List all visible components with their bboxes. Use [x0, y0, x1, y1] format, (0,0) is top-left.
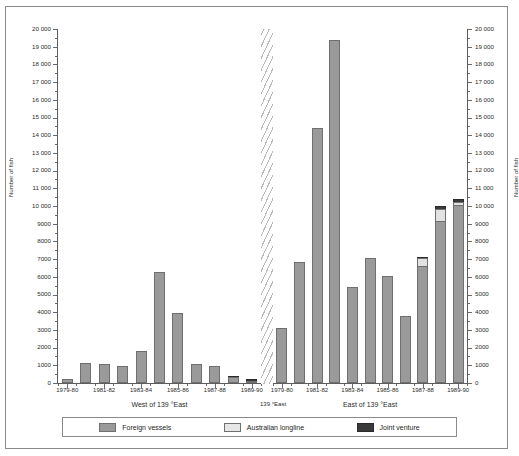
bar-west-1988-89[interactable]	[228, 376, 239, 383]
y-tick-label-right-18000: 18 000	[475, 61, 494, 67]
bar-slot-west-1989-90	[243, 29, 261, 383]
bar-west-1989-90[interactable]	[246, 379, 257, 383]
bar-east-1979-80[interactable]	[276, 328, 287, 383]
y-tick-left-3000	[53, 330, 57, 331]
x-tick-label-east-1989-90: 1989-90	[447, 387, 469, 393]
y-tick-left-2000	[53, 348, 57, 349]
y-tick-right-12500	[468, 162, 470, 163]
plot-area: 0010001000200020003000300040004000500050…	[57, 29, 468, 384]
y-tick-right-10000	[468, 206, 472, 207]
y-axis-title-right: Number of fish	[513, 158, 519, 197]
x-tick-label-west-1989-90: 1989-90	[241, 387, 263, 393]
x-tick-east-edge-0	[273, 384, 274, 386]
bar-slot-west-1983-84	[132, 29, 150, 383]
bar-west-1986-87[interactable]	[191, 364, 202, 383]
bar-east-1981-82[interactable]	[312, 128, 323, 383]
y-axis-title-left: Number of fish	[8, 158, 14, 197]
y-tick-left-1000	[53, 365, 57, 366]
y-tick-right-19500	[468, 38, 470, 39]
x-ticks-west	[58, 384, 261, 389]
y-tick-right-11500	[468, 179, 470, 180]
y-tick-label-left-0: 0	[48, 380, 51, 386]
x-tick-east-edge-8	[414, 384, 415, 386]
y-tick-label-left-17000: 17 000	[32, 79, 51, 85]
bar-west-1987-88[interactable]	[209, 366, 220, 383]
y-tick-label-left-9000: 9000	[37, 221, 51, 227]
bar-segment-west-1985-86-foreign-vessels	[172, 313, 183, 383]
y-tick-label-right-12000: 12 000	[475, 167, 494, 173]
y-tick-right-0	[468, 383, 472, 384]
y-tick-label-left-6000: 6000	[37, 274, 51, 280]
y-tick-label-right-19000: 19 000	[475, 44, 494, 50]
bar-east-1980-81[interactable]	[294, 262, 305, 383]
legend-label-joint-venture: Joint venture	[380, 424, 420, 431]
legend-item-joint-venture: Joint venture	[357, 423, 420, 432]
y-tick-right-18000	[468, 64, 472, 65]
bar-segment-west-1981-82-foreign-vessels	[99, 364, 110, 383]
bar-west-1980-81[interactable]	[80, 363, 91, 383]
y-tick-left-18000	[53, 64, 57, 65]
bar-west-1981-82[interactable]	[99, 364, 110, 383]
bar-slot-east-1985-86	[379, 29, 397, 383]
y-tick-right-1000	[468, 365, 472, 366]
bar-east-1982-83[interactable]	[329, 40, 340, 383]
bar-slot-west-1980-81	[76, 29, 94, 383]
bar-slot-east-1988-89	[432, 29, 450, 383]
y-tick-label-right-3000: 3000	[475, 327, 489, 333]
bar-west-1983-84[interactable]	[136, 351, 147, 383]
y-tick-left-10500	[55, 197, 57, 198]
y-tick-left-15000	[53, 118, 57, 119]
y-tick-left-4500	[55, 303, 57, 304]
bar-west-1985-86[interactable]	[172, 313, 183, 383]
bar-slot-west-1979-80	[58, 29, 76, 383]
bar-slot-west-1981-82	[95, 29, 113, 383]
y-tick-right-13000	[468, 153, 472, 154]
bar-east-1983-84[interactable]	[347, 287, 358, 383]
y-tick-left-6500	[55, 268, 57, 269]
y-tick-left-15500	[55, 109, 57, 110]
bar-east-1989-90[interactable]	[453, 199, 464, 383]
x-tick-east-edge-6	[379, 384, 380, 386]
y-tick-label-right-13000: 13 000	[475, 150, 494, 156]
y-tick-right-13500	[468, 144, 470, 145]
legend-swatch-australian-longline	[224, 423, 241, 432]
y-tick-label-left-13000: 13 000	[32, 150, 51, 156]
x-ticks-east	[273, 384, 467, 389]
bar-segment-east-1979-80-foreign-vessels	[276, 328, 287, 383]
bar-slot-west-1987-88	[206, 29, 224, 383]
y-tick-label-right-15000: 15 000	[475, 114, 494, 120]
bar-segment-east-1988-89-australian-longline	[435, 209, 446, 221]
y-tick-left-12000	[53, 171, 57, 172]
y-tick-left-16500	[55, 91, 57, 92]
bar-segment-east-1987-88-foreign-vessels	[417, 266, 428, 383]
panel-caption-east: East of 139 °East	[273, 401, 467, 408]
bars-west	[58, 29, 261, 383]
bar-east-1986-87[interactable]	[400, 316, 411, 383]
bar-east-1987-88[interactable]	[417, 257, 428, 383]
y-tick-label-right-8000: 8000	[475, 238, 489, 244]
bar-segment-west-1983-84-foreign-vessels	[136, 351, 147, 383]
x-tick-east-edge-10	[449, 384, 450, 386]
bar-west-1984-85[interactable]	[154, 272, 165, 383]
legend-swatch-foreign-vessels	[99, 423, 116, 432]
bar-segment-west-1986-87-foreign-vessels	[191, 364, 202, 383]
y-tick-left-5500	[55, 286, 57, 287]
x-tick-west-edge-0	[58, 384, 59, 386]
y-tick-right-7500	[468, 250, 470, 251]
y-tick-left-9000	[53, 224, 57, 225]
x-tick-west-edge-3	[113, 384, 114, 386]
legend-item-foreign-vessels: Foreign vessels	[99, 423, 171, 432]
bar-west-1982-83[interactable]	[117, 366, 128, 383]
y-tick-right-14000	[468, 135, 472, 136]
panel-east: 1979-801981-821983-841985-861987-881989-…	[273, 29, 467, 384]
y-tick-right-2500	[468, 339, 470, 340]
bar-segment-east-1981-82-foreign-vessels	[312, 128, 323, 383]
bar-east-1985-86[interactable]	[382, 276, 393, 383]
y-tick-label-right-10000: 10 000	[475, 203, 494, 209]
bar-slot-east-1987-88	[414, 29, 432, 383]
bar-east-1984-85[interactable]	[365, 258, 376, 383]
x-tick-label-west-1979-80: 1979-80	[56, 387, 78, 393]
bar-west-1979-80[interactable]	[62, 379, 73, 383]
bar-east-1988-89[interactable]	[435, 206, 446, 383]
y-tick-right-8000	[468, 241, 472, 242]
